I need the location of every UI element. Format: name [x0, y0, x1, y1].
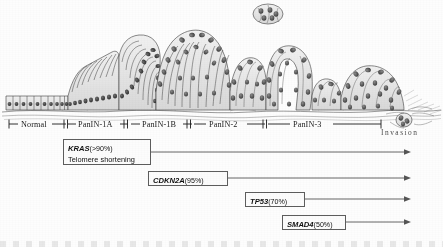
gene-name-smad4: SMAD4: [287, 220, 314, 229]
gene-box-smad4[interactable]: SMAD4(50%): [282, 215, 346, 230]
gene-pct-smad4: (50%): [314, 221, 333, 229]
gene-arrow-cdkn2a: [228, 174, 413, 181]
gene-pct-tp53: (70%): [268, 198, 287, 206]
gene-box-cdkn2a[interactable]: CDKN2A(95%): [148, 171, 228, 186]
gene-subtitle-kras: Telomere shortening: [68, 155, 146, 166]
gene-pct-kras: (>90%): [90, 145, 113, 153]
gene-name-tp53: TP53: [250, 197, 268, 206]
gene-pct-cdkn2a: (95%): [185, 177, 204, 185]
gene-arrow-kras: [151, 148, 413, 155]
gene-box-kras[interactable]: KRAS(>90%) Telomere shortening: [63, 139, 151, 165]
gene-name-cdkn2a: CDKN2A: [153, 176, 185, 185]
gene-arrow-smad4: [346, 218, 413, 225]
gene-name-kras: KRAS: [68, 144, 90, 153]
gene-arrow-tp53: [305, 195, 413, 202]
gene-box-tp53[interactable]: TP53(70%): [245, 192, 305, 207]
page-bottom-artifact: [0, 241, 443, 247]
figure-canvas: Normal PanIN-1A PanIN-1B PanIN-2 PanIN-3…: [0, 0, 443, 247]
gene-alteration-tracks: KRAS(>90%) Telomere shortening CDKN2A(95…: [0, 0, 443, 247]
